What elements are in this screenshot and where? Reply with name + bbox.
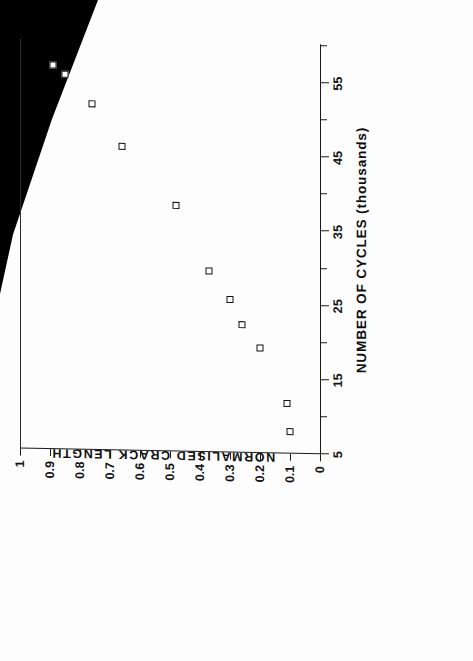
x-tick-label-15: 15: [331, 373, 345, 388]
x-tick-40: [320, 194, 327, 195]
x-tick-20: [320, 342, 327, 343]
x-tick-label-5: 5: [331, 451, 345, 458]
data-point-marker: [89, 101, 96, 108]
data-point-marker: [62, 70, 69, 77]
y-tick-label-1: 1: [13, 460, 27, 467]
y-tick-label-0.3: 0.3: [223, 464, 237, 482]
y-tick-label-0.7: 0.7: [103, 462, 117, 480]
data-point-marker: [257, 344, 264, 351]
x-tick-60: [320, 45, 327, 46]
y-tick-label-0.2: 0.2: [253, 465, 267, 483]
x-tick-30: [320, 268, 327, 269]
x-tick-label-55: 55: [331, 76, 345, 91]
x-tick-35: [320, 231, 329, 232]
x-tick-label-45: 45: [331, 151, 345, 166]
y-tick-label-0.4: 0.4: [193, 464, 207, 482]
data-point-marker: [50, 61, 57, 68]
x-tick-5: [320, 453, 329, 454]
x-tick-15: [320, 379, 329, 380]
x-tick-45: [320, 156, 329, 157]
data-point-marker: [239, 321, 246, 328]
plot-area: [20, 40, 320, 454]
x-tick-25: [320, 305, 329, 306]
x-axis-line: [320, 44, 321, 454]
y-tick-0: [320, 454, 321, 461]
y-tick-label-0: 0: [313, 466, 327, 473]
y-tick-label-0.5: 0.5: [163, 463, 177, 481]
data-point-marker: [173, 202, 180, 209]
y-tick-label-0.8: 0.8: [73, 461, 87, 479]
x-tick-50: [320, 119, 327, 120]
x-tick-label-25: 25: [331, 299, 345, 314]
x-tick-10: [320, 416, 327, 417]
x-tick-55: [320, 82, 329, 83]
scanned-page: 51525354555 00.10.20.30.40.50.60.70.80.9…: [0, 0, 473, 661]
data-point-marker: [287, 428, 294, 435]
y-tick-label-0.9: 0.9: [43, 461, 57, 479]
data-point-marker: [206, 267, 213, 274]
figure-plot: 51525354555 00.10.20.30.40.50.60.70.80.9…: [6, 6, 406, 514]
y-tick-label-0.6: 0.6: [133, 463, 147, 481]
y-tick-label-0.1: 0.1: [283, 465, 297, 483]
data-point-marker: [227, 296, 234, 303]
x-tick-label-35: 35: [331, 225, 345, 240]
data-point-marker: [119, 143, 126, 150]
data-point-marker: [284, 400, 291, 407]
x-axis-title: NUMBER OF CYCLES (thousands): [354, 45, 369, 455]
